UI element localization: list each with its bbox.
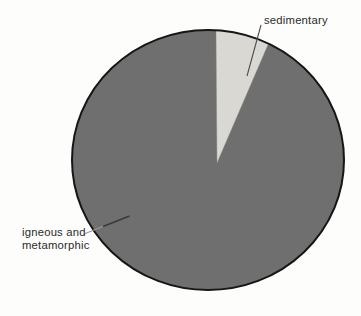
pie-chart-canvas xyxy=(0,0,361,316)
igneous-metamorphic-label: igneous and metamorphic xyxy=(22,226,90,251)
pie-chart-figure: sedimentary igneous and metamorphic xyxy=(0,0,361,316)
sedimentary-label: sedimentary xyxy=(264,14,328,27)
pie-slice-igneous-metamorphic xyxy=(72,30,344,290)
